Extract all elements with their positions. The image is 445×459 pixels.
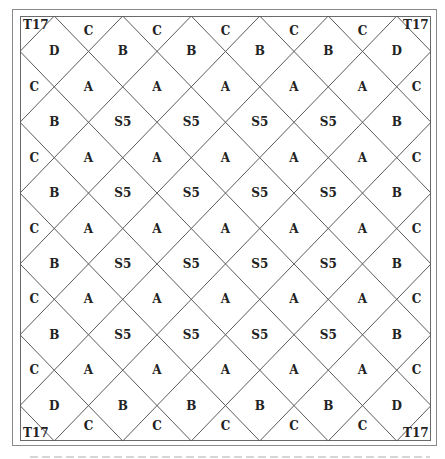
block-label-c: C xyxy=(412,81,422,93)
block-label-s5: S5 xyxy=(183,329,200,341)
block-label-a: A xyxy=(358,81,367,93)
block-label-b: B xyxy=(323,400,333,412)
block-label-c: C xyxy=(412,364,422,376)
block-label-a: A xyxy=(152,81,161,93)
block-label-d: D xyxy=(392,400,402,412)
block-label-b: B xyxy=(392,329,402,341)
clipped-caption xyxy=(30,454,430,459)
block-label-s5: S5 xyxy=(320,258,337,270)
block-label-s5: S5 xyxy=(114,329,131,341)
block-label-a: A xyxy=(152,223,161,235)
corner-label-top-left: T17 xyxy=(23,19,49,31)
block-label-c: C xyxy=(152,420,162,432)
block-label-a: A xyxy=(289,152,298,164)
block-label-a: A xyxy=(84,293,93,305)
block-label-b: B xyxy=(49,187,59,199)
block-label-c: C xyxy=(152,25,162,37)
block-label-c: C xyxy=(412,223,422,235)
block-label-s5: S5 xyxy=(183,258,200,270)
block-label-a: A xyxy=(221,81,230,93)
block-label-a: A xyxy=(84,81,93,93)
block-label-a: A xyxy=(289,223,298,235)
block-label-d: D xyxy=(49,45,59,57)
block-label-d: D xyxy=(392,45,402,57)
block-label-a: A xyxy=(289,293,298,305)
block-label-c: C xyxy=(30,223,40,235)
block-label-b: B xyxy=(323,45,333,57)
block-label-c: C xyxy=(30,81,40,93)
block-label-s5: S5 xyxy=(183,187,200,199)
block-label-b: B xyxy=(255,45,265,57)
block-label-b: B xyxy=(49,116,59,128)
block-label-a: A xyxy=(358,364,367,376)
block-label-a: A xyxy=(358,152,367,164)
block-label-s5: S5 xyxy=(320,116,337,128)
block-label-s5: S5 xyxy=(251,329,268,341)
block-label-c: C xyxy=(358,420,368,432)
block-label-b: B xyxy=(392,187,402,199)
block-label-a: A xyxy=(289,81,298,93)
block-label-a: A xyxy=(84,223,93,235)
block-label-a: A xyxy=(84,364,93,376)
block-label-c: C xyxy=(221,420,231,432)
block-label-s5: S5 xyxy=(114,187,131,199)
block-label-a: A xyxy=(358,293,367,305)
block-label-a: A xyxy=(221,293,230,305)
block-label-a: A xyxy=(152,293,161,305)
block-label-s5: S5 xyxy=(251,116,268,128)
corner-label-bottom-right: T17 xyxy=(403,427,429,439)
block-label-c: C xyxy=(30,364,40,376)
block-label-c: C xyxy=(30,152,40,164)
corner-label-top-right: T17 xyxy=(403,19,429,31)
block-label-s5: S5 xyxy=(251,258,268,270)
block-label-c: C xyxy=(221,25,231,37)
block-label-a: A xyxy=(221,223,230,235)
block-label-c: C xyxy=(412,293,422,305)
block-label-d: D xyxy=(49,400,59,412)
corner-label-bottom-left: T17 xyxy=(23,427,49,439)
block-label-b: B xyxy=(49,258,59,270)
block-label-b: B xyxy=(118,45,128,57)
block-label-a: A xyxy=(289,364,298,376)
block-label-c: C xyxy=(30,293,40,305)
block-label-b: B xyxy=(186,400,196,412)
block-label-b: B xyxy=(392,116,402,128)
block-label-a: A xyxy=(358,223,367,235)
block-label-c: C xyxy=(84,25,94,37)
block-label-s5: S5 xyxy=(114,258,131,270)
block-label-s5: S5 xyxy=(320,329,337,341)
block-label-c: C xyxy=(358,25,368,37)
block-label-b: B xyxy=(255,400,265,412)
block-label-c: C xyxy=(289,420,299,432)
block-label-a: A xyxy=(221,152,230,164)
block-label-s5: S5 xyxy=(114,116,131,128)
block-label-s5: S5 xyxy=(320,187,337,199)
block-label-a: A xyxy=(152,152,161,164)
block-label-b: B xyxy=(186,45,196,57)
block-label-b: B xyxy=(49,329,59,341)
block-label-c: C xyxy=(412,152,422,164)
block-label-a: A xyxy=(84,152,93,164)
block-label-a: A xyxy=(221,364,230,376)
block-label-s5: S5 xyxy=(251,187,268,199)
block-label-a: A xyxy=(152,364,161,376)
block-label-s5: S5 xyxy=(183,116,200,128)
block-label-b: B xyxy=(392,258,402,270)
block-label-c: C xyxy=(289,25,299,37)
block-label-b: B xyxy=(118,400,128,412)
block-label-c: C xyxy=(84,420,94,432)
